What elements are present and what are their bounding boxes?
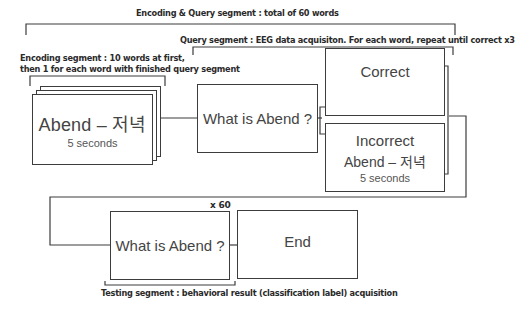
testing-segment-label: Testing segment : behavioral result (cla… (101, 288, 398, 298)
encoding-bracket (30, 76, 165, 86)
test-prompt: What is Abend ? (115, 237, 224, 254)
repeat-count-label: x 60 (210, 200, 230, 210)
query-box: What is Abend ? (197, 84, 318, 153)
testing-bracket (105, 281, 235, 285)
encoding-card: Abend – 저녁 5 seconds (32, 94, 153, 165)
query-prompt: What is Abend ? (203, 110, 312, 127)
test-box: What is Abend ? (110, 211, 230, 280)
end-box: End (237, 210, 358, 279)
encoding-duration: 5 seconds (67, 137, 117, 149)
incorrect-label: Incorrect (356, 132, 414, 149)
encoding-segment-label-1: Encoding segment : 10 words at first, (20, 53, 185, 63)
encoding-segment-label-2: then 1 for each word with finished query… (20, 64, 240, 74)
query-segment-label: Query segment : EEG data acquisiton. For… (180, 35, 515, 45)
incorrect-box: Incorrect Abend – 저녁 5 seconds (325, 123, 445, 192)
end-label: End (284, 233, 311, 250)
correct-box: Correct (325, 48, 445, 116)
incorrect-duration: 5 seconds (360, 172, 410, 184)
correct-label: Correct (360, 63, 409, 80)
incorrect-word: Abend – 저녁 (344, 151, 426, 171)
encoding-word: Abend – 저녁 (38, 110, 146, 136)
repeat-bracket (445, 66, 448, 174)
encoding-query-label: Encoding & Query segment : total of 60 w… (136, 8, 339, 18)
encoding-query-bracket (26, 24, 455, 35)
